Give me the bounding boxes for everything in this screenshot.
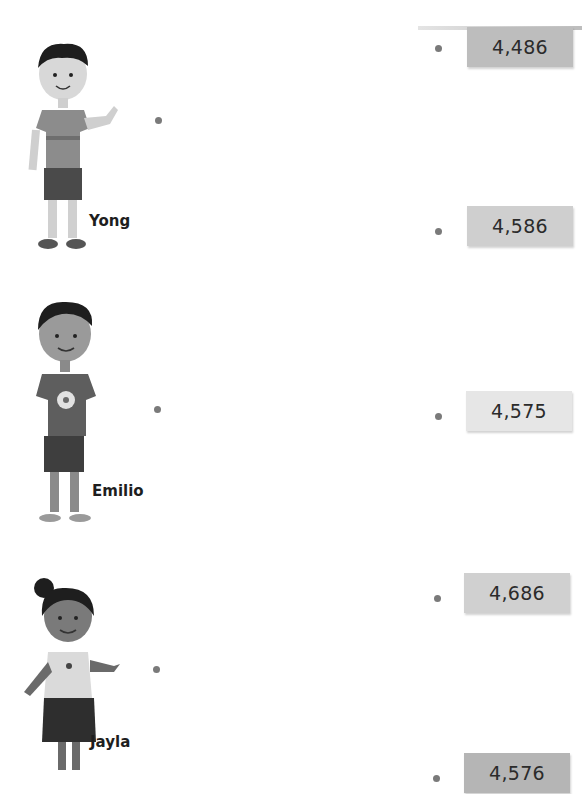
child-name-jayla: Jayla	[90, 733, 130, 751]
child-name-yong: Yong	[89, 212, 130, 230]
number-card-2[interactable]: 4,586	[467, 206, 573, 246]
match-dot-jayla[interactable]	[153, 666, 160, 673]
number-card-5[interactable]: 4,576	[464, 753, 570, 793]
match-dot-number-5[interactable]	[433, 775, 440, 782]
number-card-1[interactable]: 4,486	[467, 27, 573, 67]
match-dot-number-3[interactable]	[435, 413, 442, 420]
number-card-3[interactable]: 4,575	[466, 391, 572, 431]
match-dot-number-1[interactable]	[435, 45, 442, 52]
match-dot-yong[interactable]	[155, 117, 162, 124]
number-card-4[interactable]: 4,686	[464, 573, 570, 613]
match-dot-emilio[interactable]	[154, 406, 161, 413]
match-dot-number-4[interactable]	[434, 595, 441, 602]
child-name-emilio: Emilio	[92, 482, 144, 500]
match-dot-number-2[interactable]	[435, 228, 442, 235]
